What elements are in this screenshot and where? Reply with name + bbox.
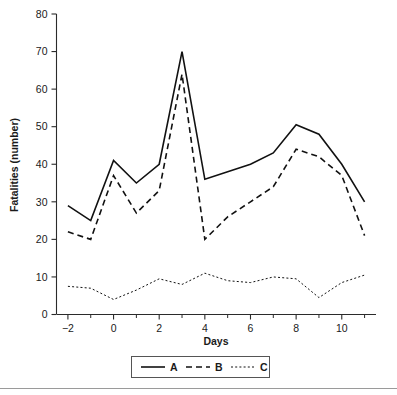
y-tick-label: 50 (36, 120, 48, 132)
y-axis-ticks: 01020304050607080 (36, 8, 57, 321)
y-axis-title-text: Fatalities (number) (8, 118, 20, 212)
x-tick-label: 2 (156, 322, 162, 334)
chart-legend: ABC (132, 357, 270, 378)
x-tick-label: 0 (111, 322, 117, 334)
y-tick-label: 10 (36, 271, 48, 283)
x-axis-title-text: Days (203, 335, 228, 347)
x-tick-label: 10 (336, 322, 348, 334)
series-line-c (68, 273, 365, 299)
x-tick-label: −2 (62, 322, 74, 334)
chart-figure: Fatalities (number) 01020304050607080 −2… (0, 0, 397, 395)
x-tick-label: 8 (293, 322, 299, 334)
y-tick-label: 70 (36, 45, 48, 57)
y-tick-label: 80 (36, 8, 48, 20)
y-tick-label: 60 (36, 83, 48, 95)
series-line-a (68, 52, 365, 221)
x-tick-label: 4 (202, 322, 208, 334)
y-axis-title: Fatalities (number) (8, 118, 20, 212)
legend-label-c: C (260, 361, 268, 373)
y-tick-label: 0 (42, 308, 48, 320)
line-chart-svg: Fatalities (number) 01020304050607080 −2… (0, 0, 397, 395)
y-tick-label: 30 (36, 196, 48, 208)
data-series-group (68, 52, 365, 300)
series-line-b (68, 74, 365, 239)
y-tick-label: 20 (36, 233, 48, 245)
x-axis-ticks: −20246810 (62, 315, 365, 334)
y-tick-label: 40 (36, 158, 48, 170)
legend-label-a: A (170, 361, 178, 373)
x-tick-label: 6 (248, 322, 254, 334)
legend-label-b: B (215, 361, 223, 373)
